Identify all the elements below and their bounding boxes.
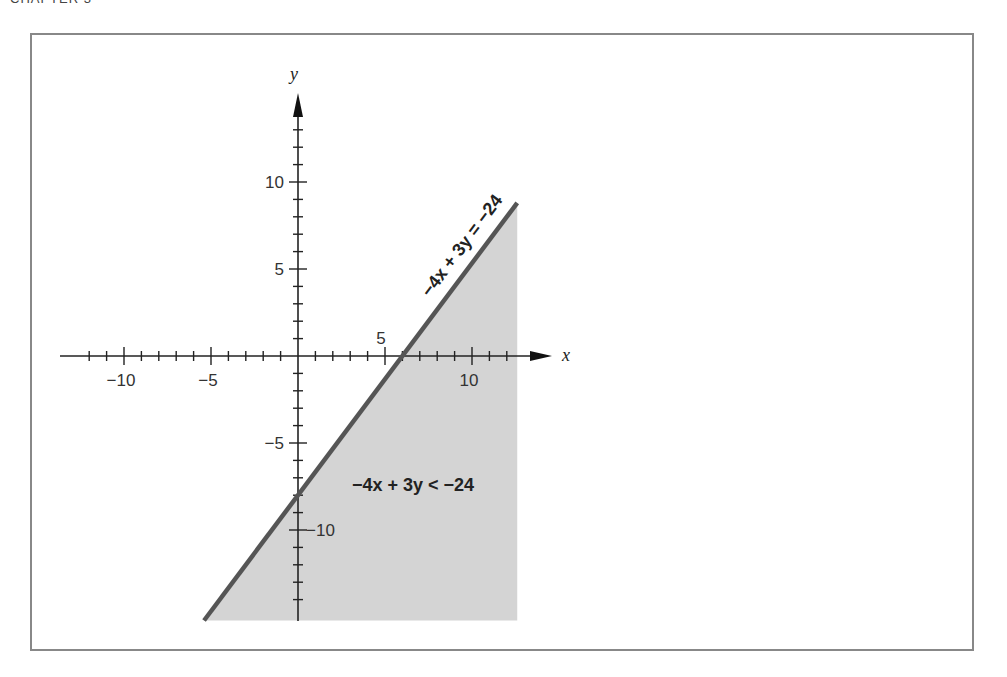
y-axis-arrow-icon	[293, 93, 303, 117]
y-tick-label: 10	[265, 173, 284, 192]
y-tick-label: 5	[275, 260, 284, 279]
inequality-label: −4x + 3y < −24	[352, 475, 474, 495]
x-axis-arrow-icon	[530, 351, 552, 361]
inequality-graph: −10−5510105−5−10 x y −4x + 3y = −24 −4x …	[0, 0, 1007, 677]
y-axis-label: y	[288, 64, 298, 84]
x-axis-label: x	[561, 345, 570, 365]
y-tick-label: −5	[265, 434, 284, 453]
x-tick-label: 5	[376, 329, 385, 348]
x-tick-label: −5	[198, 371, 217, 390]
x-tick-label: 10	[460, 371, 479, 390]
y-tick-label: −10	[306, 521, 335, 540]
x-tick-label: −10	[107, 371, 136, 390]
